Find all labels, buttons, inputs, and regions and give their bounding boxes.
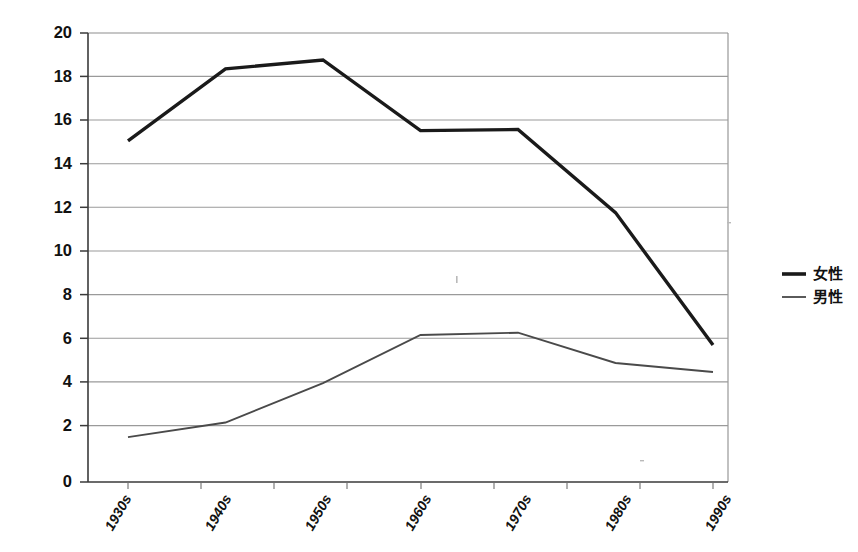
x-tick-marks [128,482,713,489]
series-line-female [128,60,713,345]
legend: 女性 男性 [782,265,843,305]
legend-label-male: 男性 [813,288,843,305]
y-tick-marks [80,33,88,482]
ytick-label-8: 8 [63,285,72,303]
line-chart: 20 18 16 14 12 10 8 6 4 2 0 1930s [0,0,858,552]
ytick-label-10: 10 [54,241,72,259]
ytick-label-18: 18 [54,67,72,85]
ytick-label-0: 0 [63,472,72,490]
ytick-label-16: 16 [54,110,72,128]
xtick-label-1940s: 1940s [201,491,234,533]
ytick-label-14: 14 [54,154,73,172]
xtick-label-1980s: 1980s [601,491,634,533]
xtick-label-1950s: 1950s [301,491,334,533]
series-line-male [128,333,713,437]
xtick-label-1960s: 1960s [401,491,434,533]
xtick-label-1930s: 1930s [101,491,134,533]
legend-label-female: 女性 [813,265,843,282]
gridlines [88,76,728,425]
ytick-label-20: 20 [54,23,72,41]
ytick-label-4: 4 [63,372,73,390]
chart-container: 20 18 16 14 12 10 8 6 4 2 0 1930s [0,0,858,552]
series-layer [128,60,713,437]
ytick-label-2: 2 [63,416,72,434]
x-tick-labels: 1930s 1940s 1950s 1960s 1970s 1980s 1990… [101,491,734,533]
xtick-label-1970s: 1970s [501,491,534,533]
ytick-label-6: 6 [63,329,72,347]
ytick-label-12: 12 [54,198,72,216]
xtick-label-1990s: 1990s [701,491,734,533]
y-tick-labels: 20 18 16 14 12 10 8 6 4 2 0 [54,23,73,490]
